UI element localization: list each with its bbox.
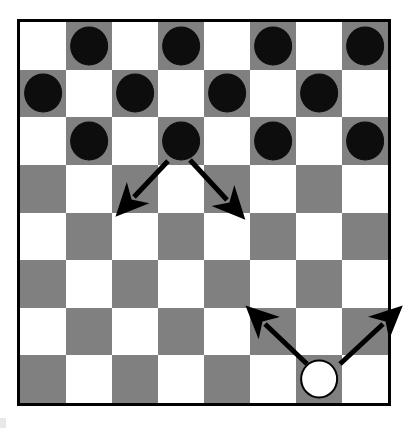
board-square-r5-c4[interactable] [204, 260, 250, 308]
board-square-r1-c0[interactable] [20, 70, 66, 118]
board-square-r0-c0[interactable] [20, 22, 66, 70]
corner-artifact [0, 418, 6, 428]
board-square-r1-c7[interactable] [342, 70, 388, 118]
board-square-r0-c2[interactable] [112, 22, 158, 70]
board-square-r6-c5[interactable] [250, 308, 296, 356]
board-square-r4-c2[interactable] [112, 213, 158, 261]
board-square-r1-c2[interactable] [112, 70, 158, 118]
white-checker-piece[interactable] [300, 360, 338, 399]
board-square-r7-c5[interactable] [250, 355, 296, 403]
board-square-r5-c5[interactable] [250, 260, 296, 308]
board-square-r6-c3[interactable] [158, 308, 204, 356]
board-square-r7-c4[interactable] [204, 355, 250, 403]
board-square-r2-c2[interactable] [112, 117, 158, 165]
board-square-r7-c0[interactable] [20, 355, 66, 403]
board-square-r3-c5[interactable] [250, 165, 296, 213]
black-checker-piece[interactable] [346, 26, 384, 65]
board-square-r4-c4[interactable] [204, 213, 250, 261]
board-square-r6-c1[interactable] [66, 308, 112, 356]
checkers-scene [0, 0, 405, 428]
board-square-r2-c7[interactable] [342, 117, 388, 165]
board-square-r1-c3[interactable] [158, 70, 204, 118]
board-square-r3-c1[interactable] [66, 165, 112, 213]
board-square-r4-c5[interactable] [250, 213, 296, 261]
board-square-r7-c6[interactable] [296, 355, 342, 403]
board-square-r6-c6[interactable] [296, 308, 342, 356]
board-square-r5-c0[interactable] [20, 260, 66, 308]
board-square-r7-c1[interactable] [66, 355, 112, 403]
black-checker-piece[interactable] [162, 122, 200, 161]
board-square-r5-c6[interactable] [296, 260, 342, 308]
board-square-r5-c2[interactable] [112, 260, 158, 308]
board-square-r3-c2[interactable] [112, 165, 158, 213]
board-square-r3-c7[interactable] [342, 165, 388, 213]
board-square-r2-c6[interactable] [296, 117, 342, 165]
black-checker-piece[interactable] [24, 74, 62, 113]
checkers-board [17, 19, 391, 406]
board-square-r1-c5[interactable] [250, 70, 296, 118]
board-square-r2-c1[interactable] [66, 117, 112, 165]
board-square-r1-c6[interactable] [296, 70, 342, 118]
board-square-r6-c7[interactable] [342, 308, 388, 356]
board-square-r5-c1[interactable] [66, 260, 112, 308]
board-square-r6-c4[interactable] [204, 308, 250, 356]
board-square-r0-c5[interactable] [250, 22, 296, 70]
board-square-r4-c1[interactable] [66, 213, 112, 261]
board-square-r3-c3[interactable] [158, 165, 204, 213]
board-square-r7-c3[interactable] [158, 355, 204, 403]
black-checker-piece[interactable] [254, 26, 292, 65]
board-square-r3-c6[interactable] [296, 165, 342, 213]
black-checker-piece[interactable] [208, 74, 246, 113]
board-square-r4-c0[interactable] [20, 213, 66, 261]
board-square-r4-c3[interactable] [158, 213, 204, 261]
black-checker-piece[interactable] [116, 74, 154, 113]
black-checker-piece[interactable] [346, 122, 384, 161]
board-grid [20, 22, 388, 403]
board-square-r5-c3[interactable] [158, 260, 204, 308]
board-square-r2-c5[interactable] [250, 117, 296, 165]
board-square-r3-c0[interactable] [20, 165, 66, 213]
board-square-r3-c4[interactable] [204, 165, 250, 213]
board-square-r7-c7[interactable] [342, 355, 388, 403]
board-square-r7-c2[interactable] [112, 355, 158, 403]
board-square-r0-c4[interactable] [204, 22, 250, 70]
board-square-r0-c6[interactable] [296, 22, 342, 70]
board-square-r6-c2[interactable] [112, 308, 158, 356]
black-checker-piece[interactable] [162, 26, 200, 65]
board-square-r2-c3[interactable] [158, 117, 204, 165]
black-checker-piece[interactable] [70, 26, 108, 65]
board-square-r0-c3[interactable] [158, 22, 204, 70]
board-square-r4-c7[interactable] [342, 213, 388, 261]
board-square-r6-c0[interactable] [20, 308, 66, 356]
board-square-r5-c7[interactable] [342, 260, 388, 308]
board-square-r0-c1[interactable] [66, 22, 112, 70]
board-square-r0-c7[interactable] [342, 22, 388, 70]
board-square-r1-c1[interactable] [66, 70, 112, 118]
board-square-r2-c0[interactable] [20, 117, 66, 165]
black-checker-piece[interactable] [300, 74, 338, 113]
board-square-r2-c4[interactable] [204, 117, 250, 165]
black-checker-piece[interactable] [70, 122, 108, 161]
black-checker-piece[interactable] [254, 122, 292, 161]
board-square-r1-c4[interactable] [204, 70, 250, 118]
board-square-r4-c6[interactable] [296, 213, 342, 261]
